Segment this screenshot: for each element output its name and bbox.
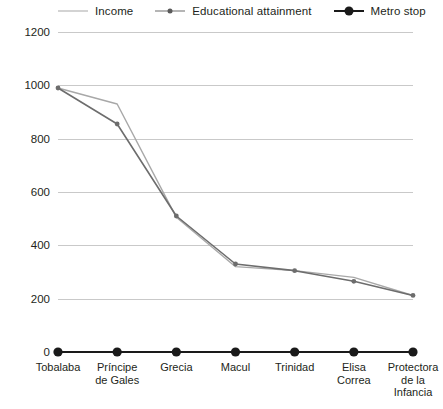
data-point-marker[interactable] [411, 293, 416, 298]
data-point-marker[interactable] [56, 86, 61, 91]
data-point-marker[interactable] [174, 214, 179, 219]
data-point-marker[interactable] [349, 347, 358, 356]
data-point-marker[interactable] [292, 268, 297, 273]
data-point-marker[interactable] [172, 347, 181, 356]
x-tick-label: Trinidad [262, 361, 328, 374]
x-tick-label: Tobalaba [25, 361, 91, 374]
data-point-marker[interactable] [113, 347, 122, 356]
data-point-marker[interactable] [233, 262, 238, 267]
x-tick-label: Protectorade laInfancia [380, 361, 443, 399]
x-tick-label: Grecia [143, 361, 209, 374]
data-point-marker[interactable] [115, 122, 120, 127]
data-point-marker[interactable] [290, 347, 299, 356]
data-point-marker[interactable] [408, 347, 417, 356]
data-point-marker[interactable] [53, 347, 62, 356]
data-point-marker[interactable] [231, 347, 240, 356]
x-tick-label: Macul [203, 361, 269, 374]
x-tick-label: ElisaCorrea [321, 361, 387, 386]
data-point-marker[interactable] [351, 279, 356, 284]
x-tick-label: Príncipede Gales [84, 361, 150, 386]
